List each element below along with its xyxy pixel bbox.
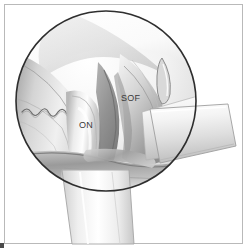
figure-root: ON SOF: [0, 0, 251, 252]
corner-mark: [0, 243, 4, 248]
surgical-illustration: [0, 0, 251, 252]
retractor-blade-bottom: [62, 170, 134, 244]
retractor-blade-right: [150, 104, 236, 163]
label-optic-nerve: ON: [79, 120, 93, 130]
label-superior-orbital-fissure: SOF: [121, 93, 140, 103]
